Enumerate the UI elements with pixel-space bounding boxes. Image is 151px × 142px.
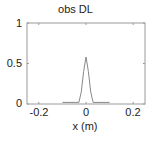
y-tick-label: 0.5 <box>2 57 22 69</box>
x-tick-label: 0.2 <box>118 106 148 118</box>
x-tick-label: 0 <box>71 106 101 118</box>
y-tick-label: 0 <box>2 97 22 109</box>
x-axis-label: x (m) <box>0 120 151 132</box>
x-tick-label: -0.2 <box>24 106 54 118</box>
axes-box <box>27 23 145 104</box>
y-tick-label: 1 <box>2 17 22 29</box>
